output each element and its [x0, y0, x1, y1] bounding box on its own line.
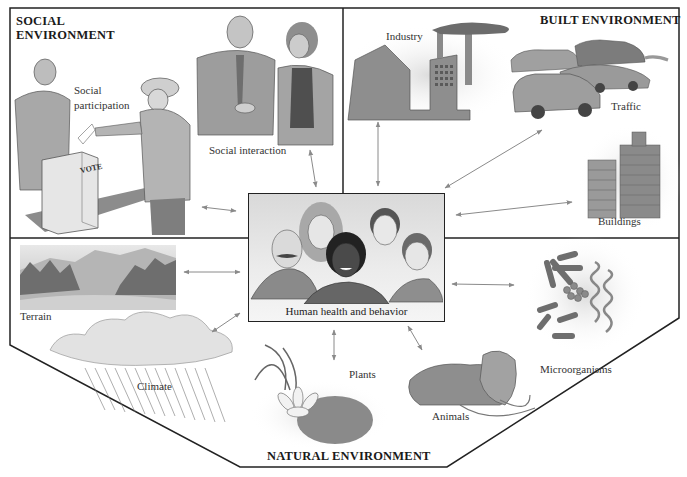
social-title-line1: SOCIAL	[16, 14, 115, 28]
climate-illustration	[50, 312, 232, 422]
terrain-illustration	[20, 245, 176, 310]
label-climate: Climate	[137, 380, 172, 392]
built-environment-title: BUILT ENVIRONMENT	[540, 13, 681, 27]
people-illustration	[249, 194, 443, 304]
label-traffic: Traffic	[611, 100, 641, 112]
label-microorganisms: Microorganisms	[540, 363, 612, 375]
label-buildings: Buildings	[598, 215, 641, 227]
arrow-animals	[408, 326, 422, 350]
label-social-participation: Social participation	[74, 83, 130, 113]
arrow-social-participation	[202, 207, 236, 211]
arrow-microorganisms	[452, 284, 514, 285]
environment-health-diagram: SOCIAL ENVIRONMENT BUILT ENVIRONMENT NAT…	[0, 0, 687, 477]
social-title-line2: ENVIRONMENT	[16, 28, 115, 42]
microorganisms-illustration	[525, 235, 645, 355]
arrow-climate	[212, 313, 240, 332]
center-label: Human health and behavior	[249, 305, 444, 317]
animals-illustration	[409, 351, 535, 416]
label-social-participation-line1: Social	[74, 83, 130, 98]
arrow-buildings	[456, 202, 572, 215]
traffic-illustration	[511, 40, 668, 119]
social-interaction-illustration	[197, 16, 333, 145]
label-animals: Animals	[432, 410, 469, 422]
label-social-interaction: Social interaction	[209, 144, 286, 156]
label-industry: Industry	[386, 30, 423, 42]
label-plants: Plants	[349, 368, 376, 380]
arrow-traffic	[445, 130, 542, 188]
social-environment-title: SOCIAL ENVIRONMENT	[16, 14, 115, 42]
plants-illustration	[250, 345, 390, 450]
industry-illustration	[342, 22, 518, 125]
label-social-participation-line2: participation	[74, 98, 130, 113]
human-health-box: Human health and behavior	[248, 193, 445, 322]
arrow-social-interaction	[310, 150, 316, 187]
label-terrain: Terrain	[20, 310, 52, 322]
natural-environment-title: NATURAL ENVIRONMENT	[267, 449, 431, 463]
